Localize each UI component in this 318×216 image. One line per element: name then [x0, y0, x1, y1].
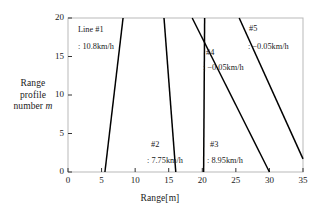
x-tick-label-20: 20 — [190, 175, 214, 185]
x-tick-label-0: 0 — [56, 175, 80, 185]
line5-value-annotation: : −0.05km/h — [248, 42, 289, 52]
y-tick-label-10: 10 — [44, 89, 64, 99]
line5-title-annotation: #5 — [249, 24, 257, 34]
line2-value-annotation: : 7.75km/h — [147, 156, 183, 166]
line3-value-annotation: : 8.95km/h — [207, 156, 243, 166]
y-tick-label-5: 5 — [44, 128, 64, 138]
y-axis-title-line-3: number m — [3, 101, 63, 113]
line1-title-annotation: Line #1 — [78, 25, 104, 35]
y-tick-label-15: 15 — [44, 51, 64, 61]
x-tick-label-10: 10 — [123, 175, 147, 185]
line2-title-annotation: #2 — [151, 140, 159, 150]
x-tick-label-25: 25 — [224, 175, 248, 185]
y-axis-title-line-1: Range — [3, 78, 63, 90]
x-tick-label-35: 35 — [291, 175, 315, 185]
y-tick-label-20: 20 — [44, 12, 64, 22]
chart-figure: Range[m] Range profile number m 05101520… — [0, 0, 318, 216]
line4-value-annotation: : −0.05km/h — [203, 63, 244, 73]
x-tick-label-30: 30 — [257, 175, 281, 185]
line4-title-annotation: #4 — [206, 48, 214, 58]
x-tick-label-15: 15 — [157, 175, 181, 185]
line3-title-annotation: #3 — [210, 140, 218, 150]
y-tick-label-0: 0 — [44, 166, 64, 176]
y-axis-title-line-3-text: number — [13, 101, 45, 111]
line1-value-annotation: : 10.8km/h — [78, 42, 114, 52]
y-axis-title-variable: m — [46, 101, 53, 111]
x-tick-label-5: 5 — [90, 175, 114, 185]
x-axis-title: Range[m] — [105, 193, 215, 203]
